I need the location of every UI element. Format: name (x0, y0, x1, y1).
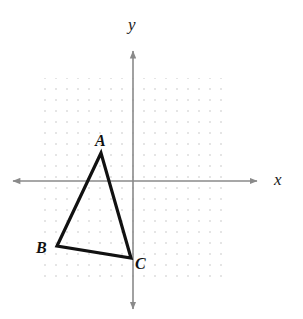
coordinate-plane-figure (0, 0, 303, 319)
y-axis-label: y (128, 16, 136, 33)
vertex-label-c: C (135, 256, 146, 272)
vertex-label-a: A (95, 133, 106, 149)
vertex-label-b: B (36, 240, 47, 256)
x-axis-label: x (274, 171, 282, 188)
